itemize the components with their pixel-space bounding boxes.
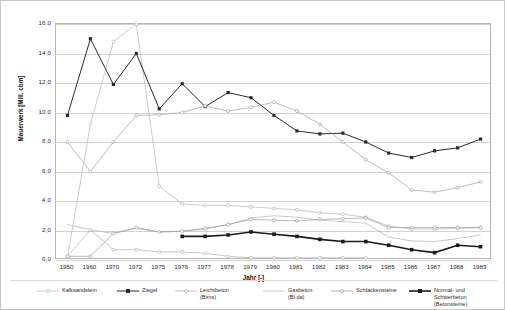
legend-swatch-icon [409, 288, 431, 294]
legend-swatch-icon [37, 288, 59, 294]
legend-label: Leichtbeton (Bims) [200, 287, 229, 301]
legend-label: Kalksandstein [62, 287, 97, 294]
x-tick-label: 1989 [460, 263, 500, 270]
legend-swatch-icon [331, 288, 353, 294]
legend-swatch-icon [175, 288, 197, 294]
legend-label: Schlackensteine [356, 287, 397, 294]
legend-divider [10, 280, 497, 281]
chart-figure: 0,02,04,06,08,010,012,014,016,0 19501960… [0, 0, 505, 310]
legend-label: Normal- und Schwerbeton (Betonsteine) [434, 287, 467, 308]
x-axis-ticks: 1950196019701972197519761977197819791980… [1, 1, 505, 310]
legend-label: Gasbeton (Bl.da) [288, 287, 312, 301]
legend-label: Ziegel [142, 287, 157, 294]
legend-swatch-icon [117, 288, 139, 294]
legend-swatch-icon [263, 288, 285, 294]
chart-legend: KalksandsteinZiegelLeichtbeton (Bims)Gas… [1, 287, 505, 309]
y-axis-title: Mauerwerk [Mill. cbm] [17, 54, 24, 164]
